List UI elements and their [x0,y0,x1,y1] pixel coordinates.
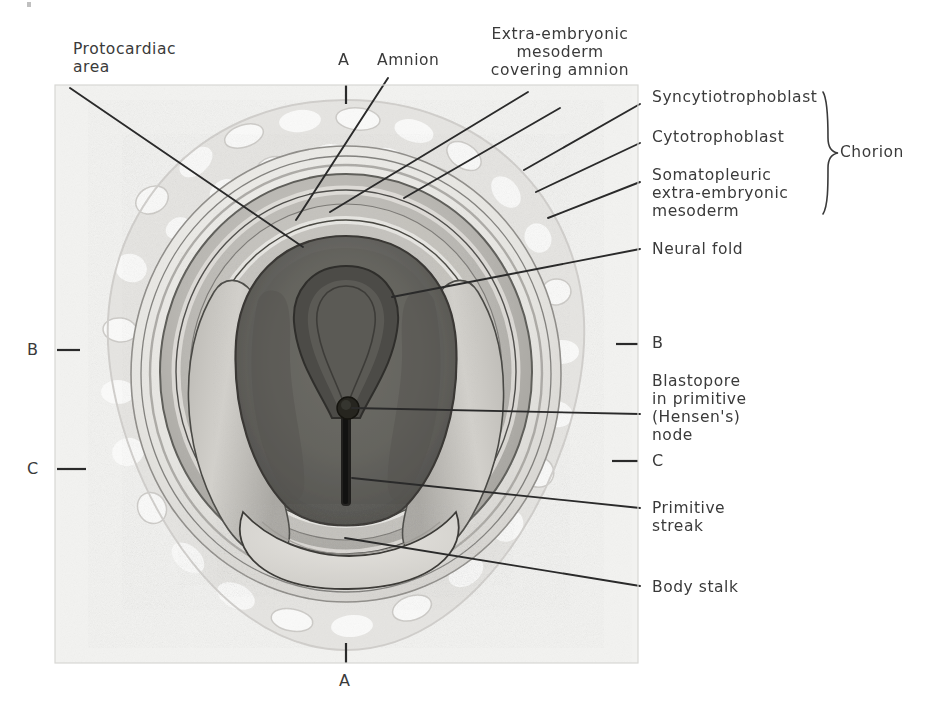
label-primitive-streak: Primitive streak [652,499,725,535]
label-amnion: Amnion [377,51,439,69]
scan-speck [27,2,31,7]
embryo-figure [0,0,935,709]
label-section-c-right: C [652,452,663,470]
label-neural-fold: Neural fold [652,240,743,258]
label-protocardiac-area: Protocardiac area [73,40,176,76]
label-chorion: Chorion [840,143,904,161]
label-syncytiotrophoblast: Syncytiotrophoblast [652,88,817,106]
label-section-a-top: A [338,51,349,69]
label-blastopore: Blastopore in primitive (Hensen's) node [652,372,747,444]
label-section-b-right: B [652,334,663,352]
label-extra-embryonic-mesoderm: Extra-embryonic mesoderm covering amnion [474,25,646,79]
label-cytotrophoblast: Cytotrophoblast [652,128,784,146]
chorion-brace [823,92,838,214]
label-section-c-left: C [27,460,38,478]
label-section-a-bottom: A [339,672,350,690]
label-section-b-left: B [27,341,38,359]
label-somatopleuric-mesoderm: Somatopleuric extra-embryonic mesoderm [652,166,788,220]
label-body-stalk: Body stalk [652,578,739,596]
